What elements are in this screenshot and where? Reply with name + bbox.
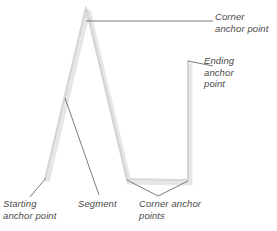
label-corner-anchor-points-bottom: Corner anchor points (139, 198, 209, 221)
leader-line-starting-anchor-point (30, 178, 46, 197)
label-starting-anchor-point: Starting anchor point (3, 198, 69, 221)
leader-lines-group (30, 21, 213, 197)
label-ending-anchor-point: Ending anchor point (204, 55, 266, 90)
diagram-page: Corner anchor point Ending anchor point … (0, 0, 277, 231)
label-corner-anchor-point-top: Corner anchor point (215, 11, 275, 34)
leader-line-segment (65, 98, 99, 195)
path-anatomy-illustration (0, 0, 277, 231)
path-shadow-group (47, 10, 190, 183)
label-segment: Segment (78, 198, 128, 210)
vector-path-shadow (47, 10, 190, 183)
